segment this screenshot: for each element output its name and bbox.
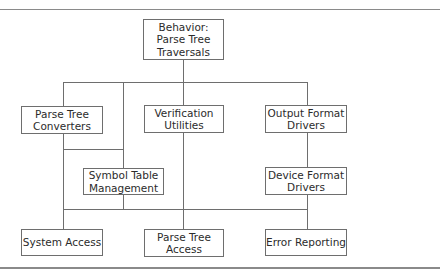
connector — [307, 82, 308, 105]
node-label: Verification Utilities — [155, 107, 214, 132]
connector — [63, 209, 308, 210]
connector — [63, 82, 64, 106]
node-parse-tree-converters: Parse Tree Converters — [21, 106, 103, 134]
node-label: Output Format Drivers — [268, 107, 345, 132]
node-label: Behavior: Parse Tree Traversals — [157, 21, 211, 59]
connector — [63, 149, 123, 150]
node-verification-utilities: Verification Utilities — [144, 105, 224, 133]
node-symbol-table-management: Symbol Table Management — [83, 168, 164, 195]
connector — [183, 133, 184, 229]
connector — [307, 195, 308, 229]
node-label: Parse Tree Converters — [33, 108, 91, 133]
bottom-rule — [0, 267, 440, 269]
connector — [307, 133, 308, 167]
node-label: Error Reporting — [266, 236, 346, 249]
node-label: Device Format Drivers — [268, 169, 344, 194]
node-parse-tree-access: Parse Tree Access — [144, 229, 224, 257]
node-behavior: Behavior: Parse Tree Traversals — [143, 19, 224, 60]
top-rule — [0, 9, 440, 10]
node-output-format-drivers: Output Format Drivers — [265, 105, 347, 133]
connector — [183, 82, 184, 105]
node-label: Parse Tree Access — [157, 231, 211, 256]
connector — [123, 195, 124, 209]
node-label: System Access — [23, 236, 101, 249]
node-device-format-drivers: Device Format Drivers — [265, 167, 347, 195]
node-label: Symbol Table Management — [89, 169, 159, 194]
node-system-access: System Access — [21, 229, 103, 256]
connector — [183, 60, 184, 82]
connector — [63, 82, 308, 83]
connector — [123, 82, 124, 168]
node-error-reporting: Error Reporting — [265, 229, 347, 256]
